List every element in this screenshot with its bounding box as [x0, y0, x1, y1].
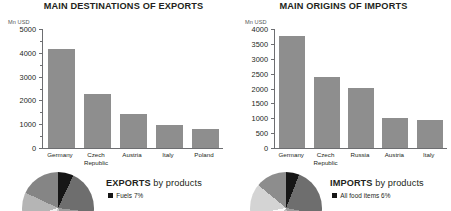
x-axis-label: Poland	[186, 151, 222, 166]
x-axis-label: Germany	[42, 151, 78, 166]
exports-pie-chart	[22, 172, 94, 211]
y-axis-tick-label: 3000	[2, 72, 36, 81]
x-axis-label: Italy	[412, 151, 446, 166]
exports-legend-item-fuels: Fuels 7%	[108, 192, 143, 199]
bar	[84, 94, 111, 148]
y-axis-tick-label: 3500	[234, 39, 268, 48]
imports-pie-heading-weak: by products	[375, 178, 424, 188]
bar	[279, 36, 305, 148]
bar	[48, 49, 75, 148]
exports-legend-label: Fuels 7%	[116, 192, 143, 199]
bar-slot	[115, 29, 151, 148]
y-axis-tick	[271, 29, 274, 30]
y-axis-tick-label: 4000	[234, 25, 268, 34]
y-axis-tick-label: 3000	[234, 54, 268, 63]
exports-bar-chart-plot	[42, 29, 223, 149]
y-axis-minor-tick	[40, 65, 42, 66]
y-axis-tick-label: 2000	[234, 84, 268, 93]
imports-legend-item-food: All food items 6%	[332, 192, 390, 199]
y-axis-tick-label: 5000	[2, 25, 36, 34]
y-axis-tick	[271, 133, 274, 134]
x-axis-label: Austria	[114, 151, 150, 166]
bar	[417, 120, 443, 148]
bar-slot	[151, 29, 187, 148]
imports-chart-title: MAIN ORIGINS OF IMPORTS	[226, 1, 451, 11]
y-axis-tick	[271, 118, 274, 119]
exports-chart-title: MAIN DESTINATIONS OF EXPORTS	[0, 1, 225, 11]
x-axis-label: Czech Republic	[308, 151, 342, 166]
bar	[192, 129, 219, 148]
x-axis-label: Austria	[377, 151, 411, 166]
y-axis-tick-label: 1000	[234, 114, 268, 123]
y-axis-tick-label: 500	[234, 129, 268, 138]
y-axis-tick	[39, 53, 42, 54]
bar-slot	[413, 29, 447, 148]
y-axis-tick	[271, 103, 274, 104]
x-axis-label: Germany	[274, 151, 308, 166]
y-axis-minor-tick	[40, 136, 42, 137]
y-axis-tick-label: 4000	[2, 48, 36, 57]
y-axis-tick	[39, 77, 42, 78]
y-axis-tick-label: 1500	[234, 99, 268, 108]
exports-pie-heading: EXPORTS by products	[106, 178, 202, 188]
y-axis-tick-label: 2500	[234, 69, 268, 78]
infographic-page: MAIN DESTINATIONS OF EXPORTS Mn USD 0100…	[0, 0, 451, 211]
exports-bars	[43, 29, 223, 148]
bar-slot	[79, 29, 115, 148]
x-axis-label: Czech Republic	[78, 151, 114, 166]
legend-swatch-icon	[108, 193, 113, 198]
imports-legend-label: All food items 6%	[340, 192, 390, 199]
y-axis-tick	[39, 124, 42, 125]
imports-panel: MAIN ORIGINS OF IMPORTS Mn USD 050010001…	[226, 0, 451, 211]
y-axis-minor-tick	[40, 112, 42, 113]
y-axis-tick	[271, 89, 274, 90]
imports-pie-chart	[250, 172, 322, 211]
exports-pie-heading-weak: by products	[153, 178, 202, 188]
imports-x-axis-labels: GermanyCzech RepublicRussiaAustriaItaly	[274, 151, 446, 166]
y-axis-tick	[271, 148, 274, 149]
y-axis-tick	[39, 29, 42, 30]
imports-bar-chart-plot	[274, 29, 447, 149]
y-axis-tick	[271, 44, 274, 45]
y-axis-tick-label: 0	[2, 144, 36, 153]
y-axis-tick	[39, 100, 42, 101]
exports-pie-heading-strong: EXPORTS	[106, 178, 151, 188]
bar-slot	[187, 29, 223, 148]
imports-pie-heading-strong: IMPORTS	[330, 178, 373, 188]
y-axis-tick	[271, 59, 274, 60]
bar-slot	[309, 29, 343, 148]
x-axis-label: Italy	[150, 151, 186, 166]
x-axis-label: Russia	[343, 151, 377, 166]
bar	[314, 77, 340, 148]
y-axis-minor-tick	[40, 41, 42, 42]
bar	[382, 118, 408, 148]
y-axis-tick-label: 0	[234, 144, 268, 153]
imports-pie-heading: IMPORTS by products	[330, 178, 424, 188]
legend-swatch-icon	[332, 193, 337, 198]
bar-slot	[378, 29, 412, 148]
y-axis-tick-label: 2000	[2, 96, 36, 105]
bar-slot	[43, 29, 79, 148]
bar-slot	[275, 29, 309, 148]
exports-panel: MAIN DESTINATIONS OF EXPORTS Mn USD 0100…	[0, 0, 225, 211]
y-axis-minor-tick	[40, 89, 42, 90]
y-axis-tick	[271, 74, 274, 75]
imports-bars	[275, 29, 447, 148]
y-axis-tick	[39, 148, 42, 149]
bar	[120, 114, 147, 148]
bar	[156, 125, 183, 148]
bar	[348, 88, 374, 148]
exports-x-axis-labels: GermanyCzech RepublicAustriaItalyPoland	[42, 151, 222, 166]
y-axis-tick-label: 1000	[2, 120, 36, 129]
bar-slot	[344, 29, 378, 148]
